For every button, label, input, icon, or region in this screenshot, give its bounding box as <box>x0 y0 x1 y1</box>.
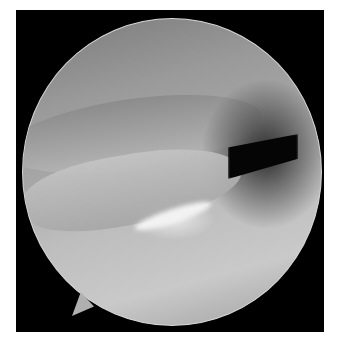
arthroscope-view <box>22 18 322 326</box>
